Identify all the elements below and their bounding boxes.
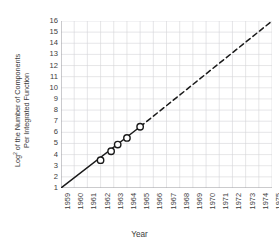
data-point-marker <box>124 135 130 141</box>
x-axis-tick-1971: 1971 <box>222 193 229 209</box>
y-axis-tick-13: 13 <box>36 51 58 59</box>
data-point-marker <box>97 157 103 163</box>
y-axis-tick-8: 8 <box>36 106 58 114</box>
y-axis-title-line2: Per Integrated Function <box>23 73 32 148</box>
y-axis-tick-10: 10 <box>36 84 58 92</box>
x-axis-tick-labels: 1959196019611962196319641965196619671968… <box>61 190 272 226</box>
data-point-marker <box>137 124 143 130</box>
y-axis-tick-4: 4 <box>36 151 58 159</box>
y-axis-tick-16: 16 <box>36 17 58 25</box>
y-axis-tick-6: 6 <box>36 129 58 137</box>
x-axis-tick-1969: 1969 <box>196 193 203 209</box>
data-point-marker <box>108 148 114 154</box>
plot-area <box>61 21 272 188</box>
y-axis-tick-14: 14 <box>36 39 58 47</box>
x-axis-tick-1961: 1961 <box>90 193 97 209</box>
x-axis-tick-1964: 1964 <box>130 193 137 209</box>
x-axis-tick-1963: 1963 <box>117 193 124 209</box>
x-axis-tick-1970: 1970 <box>209 193 216 209</box>
data-point-marker <box>115 141 121 147</box>
y-axis-tick-15: 15 <box>36 28 58 36</box>
y-axis-tick-1: 1 <box>36 184 58 192</box>
y-axis-tick-3: 3 <box>36 162 58 170</box>
y-axis-tick-5: 5 <box>36 140 58 148</box>
y-axis-tick-7: 7 <box>36 117 58 125</box>
plot-svg <box>61 21 272 188</box>
y-axis-title: Log2 of the Number of Components Per Int… <box>10 18 36 203</box>
x-axis-tick-1965: 1965 <box>143 193 150 209</box>
y-axis-tick-11: 11 <box>36 73 58 81</box>
y-axis-title-log: Log <box>14 155 23 167</box>
y-axis-tick-2: 2 <box>36 173 58 181</box>
x-axis-tick-1975: 1975 <box>275 193 279 209</box>
x-axis-tick-1973: 1973 <box>249 193 256 209</box>
y-axis-title-rest: of the Number of Components <box>14 54 23 152</box>
y-axis-tick-12: 12 <box>36 62 58 70</box>
y-axis-tick-labels: 12345678910111213141516 <box>34 18 58 203</box>
x-axis-tick-1959: 1959 <box>64 193 71 209</box>
x-axis-tick-1972: 1972 <box>235 193 242 209</box>
x-axis-tick-1968: 1968 <box>183 193 190 209</box>
x-axis-tick-1967: 1967 <box>170 193 177 209</box>
x-axis-title: Year <box>0 230 279 239</box>
x-axis-tick-1966: 1966 <box>156 193 163 209</box>
moores-law-chart: Log2 of the Number of Components Per Int… <box>0 0 279 249</box>
y-axis-tick-9: 9 <box>36 95 58 103</box>
x-axis-tick-1974: 1974 <box>262 193 269 209</box>
y-axis-title-exponent: 2 <box>12 152 18 155</box>
x-axis-tick-1962: 1962 <box>104 193 111 209</box>
x-axis-tick-1960: 1960 <box>77 193 84 209</box>
